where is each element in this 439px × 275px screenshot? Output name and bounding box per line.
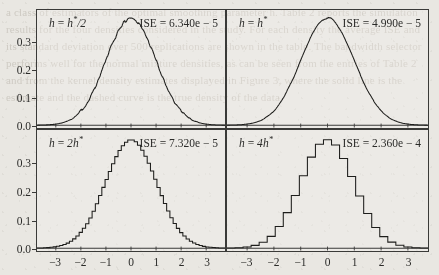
y-tick-label: 0.2 xyxy=(17,186,31,198)
x-tick-label: −1 xyxy=(100,256,112,268)
y-tick-label: 0.1 xyxy=(17,215,31,227)
x-tick-label: 2 xyxy=(179,256,185,268)
x-tick-label: 1 xyxy=(153,256,159,268)
x-tick-label: 0 xyxy=(325,256,331,268)
x-tick-label: −3 xyxy=(49,256,61,268)
panel-bottom-right: h = 4h* ISE = 2.360e − 4 xyxy=(226,129,429,252)
panel-top-right: h = h* ISE = 4.990e − 5 xyxy=(226,9,429,129)
density-curve xyxy=(37,18,225,125)
x-tick-label: 0 xyxy=(128,256,134,268)
density-curve xyxy=(227,140,428,248)
x-tick-label: −3 xyxy=(240,256,252,268)
x-tick-label: −2 xyxy=(75,256,87,268)
panel-top-left: h = h*/2 ISE = 6.340e − 5 xyxy=(36,9,226,129)
figure-row-bottom: h = 2h* ISE = 7.320e − 5 h = 4h* ISE = 2… xyxy=(36,129,429,252)
panel-bottom-left: h = 2h* ISE = 7.320e − 5 xyxy=(36,129,226,252)
panel-bottom-right-bandwidth-label: h = 4h* xyxy=(239,137,273,149)
y-tick-label: 0.3 xyxy=(17,157,31,169)
panel-top-left-ise-label: ISE = 6.340e − 5 xyxy=(140,17,218,29)
panel-bottom-left-ise-label: ISE = 7.320e − 5 xyxy=(140,137,218,149)
x-tick-label: −1 xyxy=(295,256,307,268)
x-axis: −3−2−10123−3−2−10123 xyxy=(0,253,439,275)
panel-top-right-bandwidth-label: h = h* xyxy=(239,17,267,29)
density-curve xyxy=(227,18,428,126)
panel-bottom-left-bandwidth-label: h = 2h* xyxy=(49,137,83,149)
density-figure: h = h*/2 ISE = 6.340e − 5 h = h* ISE = 4… xyxy=(36,9,429,252)
x-tick-label: 3 xyxy=(204,256,210,268)
x-tick-label: 3 xyxy=(406,256,412,268)
panel-bottom-right-ise-label: ISE = 2.360e − 4 xyxy=(343,137,421,149)
x-tick-label: 2 xyxy=(379,256,385,268)
y-tick-label: 0.2 xyxy=(17,64,31,76)
y-axis: 0.00.10.20.30.00.10.20.3 xyxy=(0,0,36,275)
y-tick-label: 0.0 xyxy=(17,120,31,132)
x-tick-label: 1 xyxy=(352,256,358,268)
y-tick-label: 0.1 xyxy=(17,92,31,104)
panel-top-left-bandwidth-label: h = h*/2 xyxy=(49,17,86,29)
figure-row-top: h = h*/2 ISE = 6.340e − 5 h = h* ISE = 4… xyxy=(36,9,429,129)
density-curve xyxy=(37,140,225,248)
panel-top-right-ise-label: ISE = 4.990e − 5 xyxy=(343,17,421,29)
y-tick-label: 0.3 xyxy=(17,36,31,48)
x-tick-label: −2 xyxy=(268,256,280,268)
